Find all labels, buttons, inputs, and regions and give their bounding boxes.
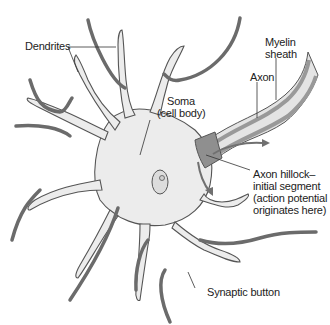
label-initial-segment: initial segment [253, 180, 320, 193]
label-action-potential: (action potential [253, 192, 327, 205]
label-axon-hillock: Axon hillock– [253, 168, 315, 181]
label-synaptic-button: Synaptic button [207, 286, 280, 299]
label-soma: Soma [167, 95, 195, 108]
label-originates-here: originates here) [253, 204, 326, 217]
label-sheath: sheath [265, 48, 297, 61]
label-axon: Axon [250, 71, 274, 84]
label-dendrites: Dendrites [25, 40, 70, 53]
label-myelin: Myelin [265, 36, 296, 49]
label-soma-cellbody: (cell body) [157, 107, 206, 120]
neuron-diagram: Dendrites Soma (cell body) Myelin sheath… [0, 0, 330, 325]
